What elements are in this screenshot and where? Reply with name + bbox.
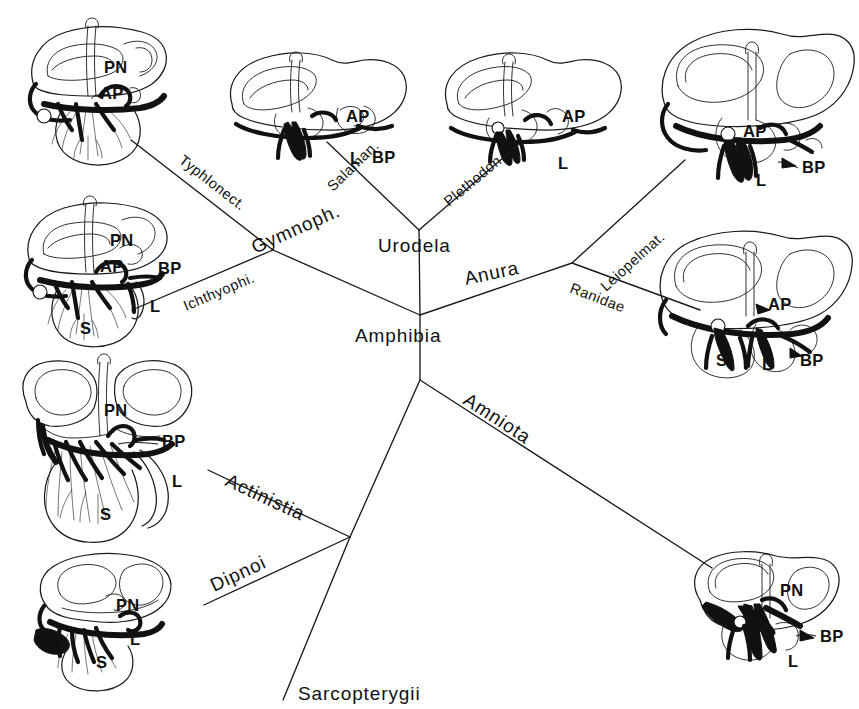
branch-line-tetrapod-stem (350, 380, 420, 537)
branch-label-plethodontidae: Plethodon. (441, 149, 508, 209)
tree-branch-labels: Typhlonect. Ichthyophi. Salaman. Plethod… (176, 137, 668, 704)
tree-branches (131, 140, 712, 700)
branch-label-sarcopterygii: Sarcopterygii (298, 683, 421, 704)
node-label-gymnophiona: Gymnoph. (248, 200, 343, 258)
branch-line-sarcopterygii (283, 537, 350, 700)
branch-label-ranidae: Ranidae (568, 280, 627, 316)
branch-line-gymnophiona (273, 250, 420, 315)
node-label-urodela: Urodela (378, 235, 451, 256)
node-label-amphibia: Amphibia (355, 325, 441, 346)
branch-line-leiopelmatidae (572, 160, 685, 263)
branch-label-leiopelmatidae: Leiopelmat. (597, 228, 668, 294)
cladogram-figure: PN AP (0, 0, 859, 709)
branch-label-amniota: Amniota (460, 389, 535, 448)
branch-label-ichthyophiidae: Ichthyophi. (181, 269, 257, 313)
branch-line-typhlonectidae (131, 140, 273, 250)
branch-label-actinistia: Actinistia (222, 470, 308, 525)
cladogram-tree-layer: Amphibia Urodela Gymnoph. Anura Typhlone… (0, 0, 859, 709)
tree-node-labels: Amphibia Urodela Gymnoph. Anura (248, 200, 521, 346)
